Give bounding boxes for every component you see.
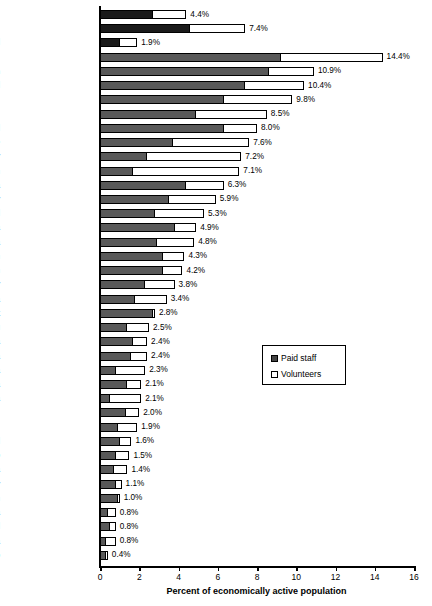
bar-segment-paid-staff <box>100 280 145 289</box>
bar-segment-volunteers <box>119 38 138 47</box>
bar-segment-volunteers <box>126 380 141 389</box>
bar-value-label: 7.2% <box>245 152 264 162</box>
legend: Paid staff Volunteers <box>262 345 346 385</box>
bar-segment-paid-staff <box>100 24 190 33</box>
x-axis-tick <box>336 566 338 571</box>
bar-segment-volunteers <box>126 323 149 332</box>
bar-segment-paid-staff <box>100 295 135 304</box>
chart-container: 36 countries4.4%Developed countries7.4%D… <box>0 0 432 606</box>
legend-item-volunteers: Volunteers <box>271 369 321 379</box>
bar-segment-paid-staff <box>100 423 118 432</box>
bar-value-label: 4.8% <box>198 237 217 247</box>
bar-segment-volunteers <box>132 167 239 176</box>
bar-segment-paid-staff <box>100 152 147 161</box>
bar-segment-paid-staff <box>100 167 133 176</box>
x-axis-tick-label: 8 <box>245 572 269 582</box>
x-axis-tick <box>179 566 181 571</box>
bar-value-label: 1.9% <box>141 422 160 432</box>
bar-segment-volunteers <box>195 110 267 119</box>
bar-segment-paid-staff <box>100 437 120 446</box>
bar-value-label: 5.3% <box>208 209 227 219</box>
bar-segment-volunteers <box>152 309 155 318</box>
bar-segment-volunteers <box>146 152 241 161</box>
bar-segment-volunteers <box>117 423 138 432</box>
x-axis-tick <box>296 566 298 571</box>
legend-label-volunteers: Volunteers <box>281 369 321 379</box>
bar-segment-volunteers <box>268 67 314 76</box>
bar-segment-volunteers <box>125 408 140 417</box>
bar-value-label: 0.8% <box>120 536 139 546</box>
bar-value-label: 0.4% <box>112 550 131 560</box>
bar-segment-volunteers <box>154 209 204 218</box>
bar-value-label: 5.9% <box>220 194 239 204</box>
bar-segment-paid-staff <box>100 223 175 232</box>
bar-segment-paid-staff <box>100 10 153 19</box>
legend-swatch-paid-staff <box>271 355 278 362</box>
bar-segment-paid-staff <box>100 494 118 503</box>
x-axis-tick-label: 6 <box>206 572 230 582</box>
bar-segment-paid-staff <box>100 138 173 147</box>
x-axis-tick <box>218 566 220 571</box>
bar-segment-volunteers <box>244 81 304 90</box>
bar-segment-paid-staff <box>100 124 224 133</box>
x-axis-tick-label: 14 <box>363 572 387 582</box>
bar-segment-volunteers <box>280 53 383 62</box>
bar-segment-paid-staff <box>100 95 224 104</box>
x-axis-tick <box>375 566 377 571</box>
bar-segment-paid-staff <box>100 67 269 76</box>
bar-segment-paid-staff <box>100 366 116 375</box>
bar-segment-volunteers <box>115 451 130 460</box>
bar-segment-paid-staff <box>100 181 186 190</box>
x-axis-tick-label: 12 <box>324 572 348 582</box>
bar-segment-volunteers <box>132 337 147 346</box>
bar-segment-paid-staff <box>100 38 120 47</box>
bar-segment-volunteers <box>223 124 257 133</box>
x-axis-tick-label: 2 <box>127 572 151 582</box>
bar-value-label: 1.1% <box>126 479 145 489</box>
bar-value-label: 2.1% <box>145 394 164 404</box>
bar-value-label: 0.8% <box>120 522 139 532</box>
bar-value-label: 2.4% <box>151 337 170 347</box>
bar-value-label: 2.5% <box>153 323 172 333</box>
bar-value-label: 2.0% <box>143 408 162 418</box>
bar-segment-paid-staff <box>100 480 116 489</box>
x-axis-tick-label: 10 <box>284 572 308 582</box>
bar-segment-volunteers <box>105 537 116 546</box>
bar-value-label: 7.1% <box>243 166 262 176</box>
bar-segment-paid-staff <box>100 238 157 247</box>
bar-segment-volunteers <box>162 266 183 275</box>
bar-segment-paid-staff <box>100 53 281 62</box>
bar-segment-volunteers <box>152 10 186 19</box>
x-axis-tick <box>257 566 259 571</box>
bar-value-label: 4.4% <box>190 10 209 20</box>
bar-segment-paid-staff <box>100 451 116 460</box>
bar-segment-paid-staff <box>100 195 169 204</box>
bar-value-label: 3.4% <box>171 294 190 304</box>
bar-segment-volunteers <box>134 295 166 304</box>
bar-value-label: 0.8% <box>120 508 139 518</box>
bar-segment-volunteers <box>117 494 120 503</box>
bar-segment-volunteers <box>107 508 116 517</box>
bar-value-label: 9.8% <box>296 95 315 105</box>
x-axis-tick-label: 4 <box>167 572 191 582</box>
bar-value-label: 2.3% <box>149 365 168 375</box>
bar-value-label: 7.4% <box>249 24 268 34</box>
bar-value-label: 10.4% <box>308 81 331 91</box>
bar-value-label: 2.1% <box>145 379 164 389</box>
legend-swatch-volunteers <box>271 371 278 378</box>
bar-segment-paid-staff <box>100 323 127 332</box>
legend-item-paid-staff: Paid staff <box>271 353 316 363</box>
x-axis-title: Percent of economically active populatio… <box>99 586 414 596</box>
bar-segment-paid-staff <box>100 309 153 318</box>
legend-label-paid-staff: Paid staff <box>281 353 316 363</box>
bar-value-label: 1.9% <box>141 38 160 48</box>
x-axis-tick <box>414 566 416 571</box>
bar-segment-volunteers <box>113 465 128 474</box>
bar-value-label: 6.3% <box>228 180 247 190</box>
bar-segment-volunteers <box>105 551 108 560</box>
bar-value-label: 7.6% <box>253 138 272 148</box>
bar-value-label: 14.4% <box>387 52 410 62</box>
plot-area: 36 countries4.4%Developed countries7.4%D… <box>0 0 432 606</box>
bar-value-label: 8.5% <box>271 109 290 119</box>
bar-segment-paid-staff <box>100 408 126 417</box>
